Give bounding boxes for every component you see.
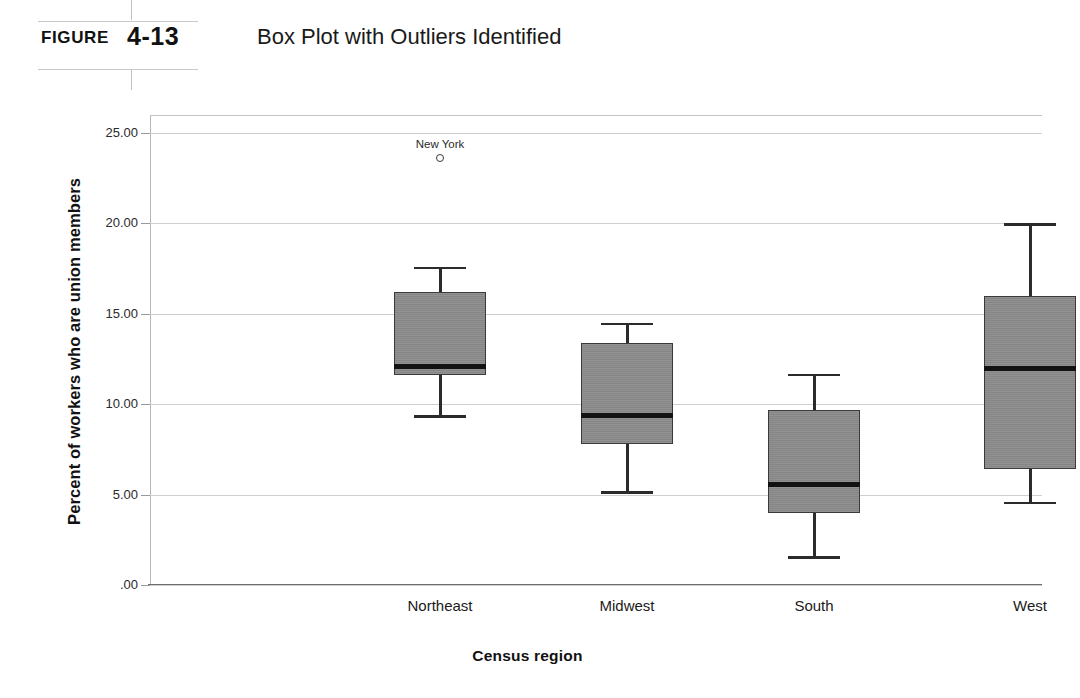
- plot-top-border: [150, 115, 1042, 116]
- y-tick-label: 20.00: [58, 215, 138, 230]
- y-axis-tick: [141, 223, 150, 224]
- lower-whisker-stem: [1029, 469, 1032, 502]
- lower-whisker-cap: [414, 415, 466, 418]
- upper-whisker-stem: [813, 374, 816, 410]
- y-tick-label: 10.00: [58, 396, 138, 411]
- median-line: [984, 366, 1076, 371]
- plot-area: .005.0010.0015.0020.0025.00 NortheastMid…: [150, 115, 1042, 585]
- y-axis-tick: [141, 133, 150, 134]
- gridline: [150, 495, 1042, 496]
- upper-whisker-cap: [788, 374, 840, 377]
- y-axis-tick: [141, 314, 150, 315]
- lower-whisker-stem: [626, 444, 629, 491]
- y-axis-line: [150, 115, 151, 585]
- x-axis-title: Census region: [0, 647, 1055, 665]
- figure-number: 4-13: [127, 22, 179, 51]
- figure-header: FIGURE 4-13 Box Plot with Outliers Ident…: [0, 0, 1055, 90]
- y-tick-label: .00: [58, 577, 138, 592]
- box-iqr-rect: [984, 296, 1076, 470]
- x-tick-label-south: South: [714, 597, 914, 614]
- box-iqr-rect: [394, 292, 486, 375]
- y-tick-label: 15.00: [58, 306, 138, 321]
- chart-container: Percent of workers who are union members…: [0, 90, 1055, 698]
- gridline: [150, 585, 1042, 586]
- lower-whisker-stem: [813, 513, 816, 556]
- caption-tick-top: [131, 0, 132, 20]
- y-axis-tick: [141, 585, 150, 586]
- caption-rule-bottom: [38, 69, 198, 70]
- caption-tick-bottom: [131, 70, 132, 90]
- upper-whisker-cap: [414, 267, 466, 270]
- median-line: [768, 482, 860, 487]
- gridline: [150, 223, 1042, 224]
- y-tick-label: 5.00: [58, 487, 138, 502]
- y-tick-label: 25.00: [58, 125, 138, 140]
- lower-whisker-cap: [788, 556, 840, 559]
- outlier-marker: [436, 154, 444, 162]
- box-iqr-rect: [581, 343, 673, 444]
- lower-whisker-cap: [1004, 502, 1056, 505]
- outlier-label: New York: [360, 138, 520, 150]
- figure-title: Box Plot with Outliers Identified: [257, 24, 561, 50]
- median-line: [394, 364, 486, 369]
- gridline: [150, 133, 1042, 134]
- lower-whisker-cap: [601, 491, 653, 494]
- x-tick-label-midwest: Midwest: [527, 597, 727, 614]
- x-tick-label-northeast: Northeast: [340, 597, 540, 614]
- upper-whisker-stem: [626, 323, 629, 343]
- box-iqr-rect: [768, 410, 860, 513]
- upper-whisker-cap: [1004, 223, 1056, 226]
- y-axis-tick: [141, 404, 150, 405]
- gridline: [150, 314, 1042, 315]
- figure-label: FIGURE: [41, 28, 109, 48]
- y-axis-title: Percent of workers who are union members: [65, 102, 84, 602]
- upper-whisker-cap: [601, 323, 653, 326]
- y-axis-tick: [141, 495, 150, 496]
- upper-whisker-stem: [1029, 223, 1032, 295]
- upper-whisker-stem: [439, 267, 442, 292]
- median-line: [581, 413, 673, 418]
- x-tick-label-west: West: [930, 597, 1080, 614]
- lower-whisker-stem: [439, 375, 442, 415]
